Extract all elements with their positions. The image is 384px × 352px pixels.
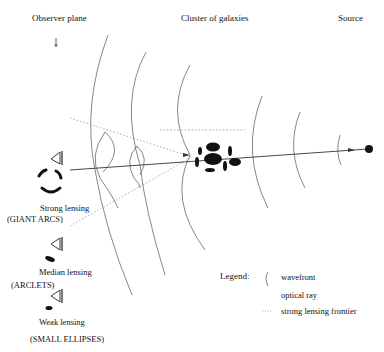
eye-icon — [51, 289, 62, 303]
observer-plane-label: Observer plane — [32, 14, 87, 23]
small-ellipse-icon — [46, 306, 53, 310]
giant-arcs-icon — [39, 170, 61, 192]
median-lensing-label: Median lensing — [39, 268, 92, 277]
source-dot-icon — [365, 145, 373, 153]
legend-item-strong-lensing-frontier: strong lensing frontier — [281, 307, 357, 316]
strong-lensing-frontier — [70, 118, 245, 226]
observer-plane-arrow-icon — [55, 38, 58, 47]
small-ellipses-label: (SMALL ELLIPSES) — [30, 335, 104, 344]
strong-lensing-label: Strong lensing — [40, 204, 89, 213]
weak-lensing-label: Weak lensing — [39, 318, 85, 327]
arclets-label: (ARCLETS) — [11, 281, 54, 290]
legend-title: Legend: — [220, 272, 250, 281]
legend-wavefront-icon — [266, 272, 268, 286]
galaxy-cluster-icon — [195, 143, 241, 173]
giant-arcs-label: (GIANT ARCS) — [7, 215, 63, 224]
source-label: Source — [338, 14, 363, 23]
legend-item-optical-ray: optical ray — [281, 291, 317, 300]
cluster-label: Cluster of galaxies — [181, 14, 248, 23]
eye-icon — [51, 151, 62, 165]
lensing-diagram — [0, 0, 384, 352]
arclet-icon — [44, 255, 55, 263]
legend-item-wavefront: wavefront — [281, 273, 315, 282]
wavefronts-lensed — [91, 35, 205, 295]
eye-icon — [51, 237, 62, 251]
